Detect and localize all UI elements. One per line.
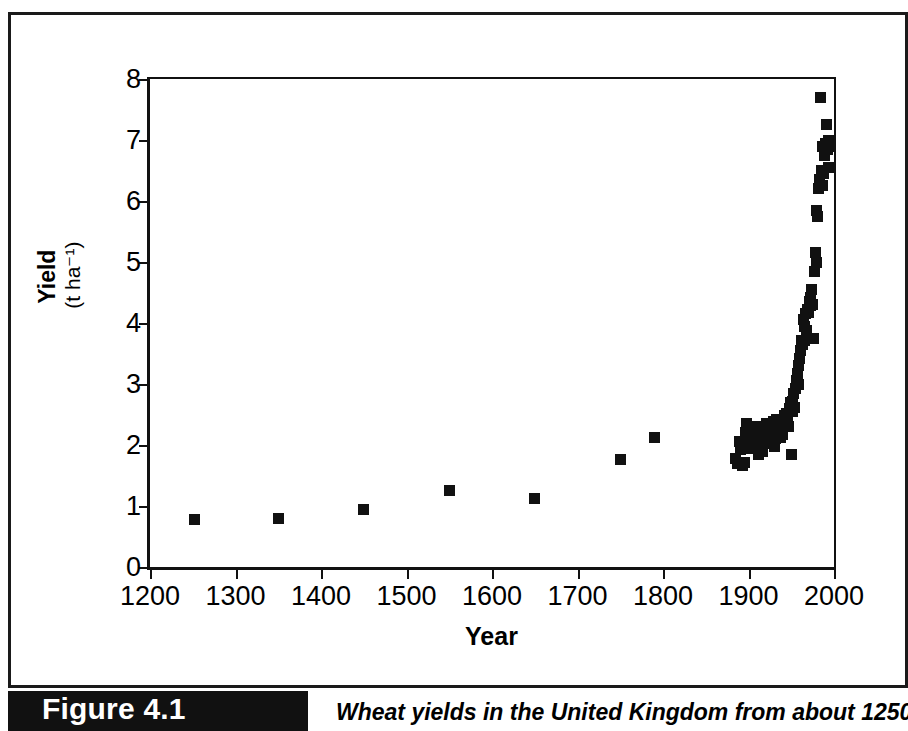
x-axis-tick-label-2: 1400 bbox=[291, 583, 351, 610]
x-axis-tick-label-7: 1900 bbox=[718, 583, 778, 610]
x-axis-tick bbox=[834, 567, 836, 579]
plot-area: 0123456781200130014001500160017001800190… bbox=[147, 77, 836, 570]
data-point bbox=[807, 299, 818, 310]
y-axis-tick-label-0: 0 bbox=[126, 554, 141, 581]
figure-number-label: Figure 4.1 bbox=[42, 692, 186, 726]
figure-caption-text: Wheat yields in the United Kingdom from … bbox=[336, 700, 906, 725]
x-axis-tick bbox=[492, 567, 494, 579]
x-axis-tick bbox=[236, 567, 238, 579]
y-axis-tick-label-3: 3 bbox=[126, 371, 141, 398]
y-axis-tick-label-8: 8 bbox=[126, 66, 141, 93]
data-point bbox=[823, 162, 834, 173]
x-axis-title: Year bbox=[147, 622, 836, 651]
x-axis-tick-label-8: 2000 bbox=[804, 583, 864, 610]
data-point bbox=[615, 454, 626, 465]
data-point bbox=[812, 211, 823, 222]
data-point bbox=[444, 485, 455, 496]
data-point bbox=[783, 421, 794, 432]
data-point bbox=[806, 284, 817, 295]
data-point bbox=[821, 119, 832, 130]
x-axis-tick bbox=[578, 567, 580, 579]
x-axis-tick-label-5: 1700 bbox=[547, 583, 607, 610]
y-axis-tick-label-6: 6 bbox=[126, 188, 141, 215]
data-point bbox=[786, 449, 797, 460]
x-axis-tick bbox=[150, 567, 152, 579]
figure-caption-bar: Figure 4.1 Wheat yields in the United Ki… bbox=[8, 691, 908, 731]
x-axis-tick bbox=[663, 567, 665, 579]
x-axis-tick bbox=[749, 567, 751, 579]
x-axis-tick-label-4: 1600 bbox=[462, 583, 522, 610]
y-axis-title: Yield (t ha⁻¹) bbox=[35, 245, 84, 309]
y-axis-title-unit: (t ha⁻¹) bbox=[61, 245, 85, 309]
data-point bbox=[273, 513, 284, 524]
x-axis-tick-label-1: 1300 bbox=[205, 583, 265, 610]
data-point bbox=[649, 432, 660, 443]
x-axis-tick-label-6: 1800 bbox=[633, 583, 693, 610]
x-axis-tick bbox=[407, 567, 409, 579]
data-point bbox=[789, 402, 800, 413]
x-axis-tick bbox=[321, 567, 323, 579]
data-point bbox=[824, 141, 835, 152]
data-point bbox=[811, 257, 822, 268]
data-point bbox=[815, 92, 826, 103]
data-point bbox=[739, 457, 750, 468]
y-axis-tick-label-2: 2 bbox=[126, 432, 141, 459]
y-axis-tick-label-1: 1 bbox=[126, 493, 141, 520]
y-axis-tick-label-7: 7 bbox=[126, 127, 141, 154]
data-point bbox=[808, 333, 819, 344]
y-axis-tick-label-5: 5 bbox=[126, 249, 141, 276]
x-axis-tick-label-0: 1200 bbox=[120, 583, 180, 610]
figure-number-badge: Figure 4.1 bbox=[8, 691, 308, 731]
data-point bbox=[793, 379, 804, 390]
y-axis-tick-label-4: 4 bbox=[126, 310, 141, 337]
data-point bbox=[358, 504, 369, 515]
y-axis-title-main: Yield bbox=[35, 245, 61, 309]
data-point bbox=[189, 514, 200, 525]
data-point bbox=[817, 180, 828, 191]
data-point bbox=[529, 493, 540, 504]
x-axis-tick-label-3: 1500 bbox=[376, 583, 436, 610]
